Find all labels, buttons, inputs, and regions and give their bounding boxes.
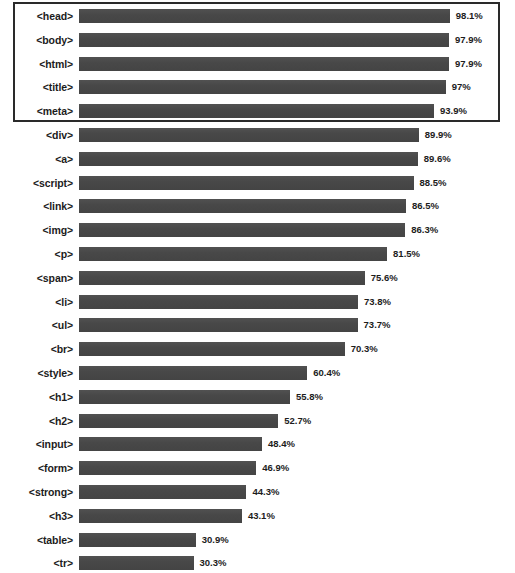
- category-label: <meta>: [0, 99, 73, 123]
- bar: [79, 366, 307, 380]
- chart-row: <head>98.1%: [0, 4, 515, 28]
- bar: [79, 485, 246, 499]
- bar: [79, 533, 196, 547]
- category-label: <style>: [0, 361, 73, 385]
- bar-value-label: 55.8%: [296, 390, 323, 404]
- chart-row: <span>75.6%: [0, 266, 515, 290]
- chart-row: <table>30.9%: [0, 528, 515, 552]
- bar-track: 43.1%: [79, 504, 515, 528]
- bar: [79, 104, 434, 118]
- bar-value-label: 98.1%: [456, 9, 483, 23]
- category-label: <script>: [0, 171, 73, 195]
- bar-track: 97.9%: [79, 28, 515, 52]
- chart-row: <body>97.9%: [0, 28, 515, 52]
- category-label: <html>: [0, 52, 73, 76]
- bar-value-label: 44.3%: [252, 485, 279, 499]
- category-label: <tr>: [0, 551, 73, 573]
- chart-row: <script>88.5%: [0, 171, 515, 195]
- category-label: <p>: [0, 242, 73, 266]
- bar-track: 75.6%: [79, 266, 515, 290]
- category-label: <strong>: [0, 480, 73, 504]
- bar-value-label: 97%: [452, 80, 471, 94]
- chart-row: <html>97.9%: [0, 52, 515, 76]
- category-label: <table>: [0, 528, 73, 552]
- bar: [79, 176, 414, 190]
- bar-track: 86.3%: [79, 218, 515, 242]
- bar: [79, 318, 358, 332]
- bar: [79, 461, 256, 475]
- bar-value-label: 75.6%: [371, 271, 398, 285]
- bar-track: 73.7%: [79, 313, 515, 337]
- bar-value-label: 93.9%: [440, 104, 467, 118]
- bar-track: 44.3%: [79, 480, 515, 504]
- bar-value-label: 70.3%: [351, 342, 378, 356]
- bar-track: 55.8%: [79, 385, 515, 409]
- chart-row: <ul>73.7%: [0, 313, 515, 337]
- bar-value-label: 81.5%: [393, 247, 420, 261]
- chart-row: <form>46.9%: [0, 456, 515, 480]
- bar-track: 73.8%: [79, 290, 515, 314]
- bar-value-label: 43.1%: [248, 509, 275, 523]
- bar: [79, 152, 418, 166]
- bar: [79, 414, 278, 428]
- chart-row: <title>97%: [0, 75, 515, 99]
- bar-value-label: 30.3%: [200, 556, 227, 570]
- chart-row: <h1>55.8%: [0, 385, 515, 409]
- bar-track: 98.1%: [79, 4, 515, 28]
- category-label: <h3>: [0, 504, 73, 528]
- chart-row: <li>73.8%: [0, 290, 515, 314]
- chart-row: <h3>43.1%: [0, 504, 515, 528]
- bar-track: 52.7%: [79, 409, 515, 433]
- category-label: <br>: [0, 337, 73, 361]
- bar-chart: <head>98.1%<body>97.9%<html>97.9%<title>…: [0, 0, 515, 573]
- bar-value-label: 30.9%: [202, 533, 229, 547]
- chart-row: <meta>93.9%: [0, 99, 515, 123]
- bar: [79, 223, 405, 237]
- chart-row: <h2>52.7%: [0, 409, 515, 433]
- bar-track: 97%: [79, 75, 515, 99]
- bar-value-label: 97.9%: [455, 33, 482, 47]
- category-label: <div>: [0, 123, 73, 147]
- chart-row: <input>48.4%: [0, 432, 515, 456]
- category-label: <link>: [0, 194, 73, 218]
- bar: [79, 271, 365, 285]
- category-label: <ul>: [0, 313, 73, 337]
- bar-track: 48.4%: [79, 432, 515, 456]
- bar-track: 97.9%: [79, 52, 515, 76]
- bar-track: 81.5%: [79, 242, 515, 266]
- chart-row: <strong>44.3%: [0, 480, 515, 504]
- category-label: <a>: [0, 147, 73, 171]
- bar: [79, 9, 450, 23]
- chart-row: <div>89.9%: [0, 123, 515, 147]
- category-label: <form>: [0, 456, 73, 480]
- bar-value-label: 60.4%: [313, 366, 340, 380]
- chart-row: <tr>30.3%: [0, 551, 515, 573]
- bar: [79, 199, 406, 213]
- chart-row: <p>81.5%: [0, 242, 515, 266]
- category-label: <img>: [0, 218, 73, 242]
- bar: [79, 295, 358, 309]
- bar-value-label: 89.6%: [424, 152, 451, 166]
- bar: [79, 128, 419, 142]
- category-label: <input>: [0, 432, 73, 456]
- bar: [79, 390, 290, 404]
- category-label: <head>: [0, 4, 73, 28]
- bar: [79, 509, 242, 523]
- category-label: <title>: [0, 75, 73, 99]
- bar-track: 30.3%: [79, 551, 515, 573]
- bar-track: 70.3%: [79, 337, 515, 361]
- chart-row: <style>60.4%: [0, 361, 515, 385]
- bar: [79, 556, 194, 570]
- category-label: <li>: [0, 290, 73, 314]
- category-label: <body>: [0, 28, 73, 52]
- bar-value-label: 73.7%: [364, 318, 391, 332]
- bar-track: 60.4%: [79, 361, 515, 385]
- bar-track: 88.5%: [79, 171, 515, 195]
- bar-value-label: 97.9%: [455, 57, 482, 71]
- bar-value-label: 52.7%: [284, 414, 311, 428]
- bar-value-label: 73.8%: [364, 295, 391, 309]
- bar-track: 30.9%: [79, 528, 515, 552]
- bar-track: 86.5%: [79, 194, 515, 218]
- chart-row: <a>89.6%: [0, 147, 515, 171]
- bar: [79, 342, 345, 356]
